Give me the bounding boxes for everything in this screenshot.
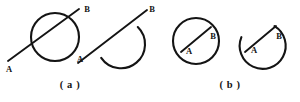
circle-outline	[31, 13, 79, 61]
point-label-a: A	[186, 46, 193, 56]
geometry-figure: A B A B A B A B ( a ) ( b )	[0, 0, 300, 102]
point-label-b: B	[84, 4, 90, 14]
point-label-b: B	[210, 31, 216, 41]
circle-outline	[173, 18, 219, 64]
caption-b: ( b )	[219, 79, 240, 91]
point-label-b: B	[276, 31, 282, 41]
figure-circle-with-chord: A B	[173, 18, 219, 64]
caption-a: ( a )	[60, 79, 81, 91]
point-label-a: A	[77, 54, 84, 64]
point-label-b: B	[149, 4, 155, 14]
secant-line	[78, 10, 147, 63]
chord-line	[245, 26, 276, 52]
arc-outline	[101, 27, 145, 68]
point-label-a: A	[6, 64, 13, 74]
figure-arc-with-chord: A B	[240, 26, 286, 69]
point-label-a: A	[251, 45, 258, 55]
figure-canvas: A B A B A B A B ( a ) ( b )	[0, 0, 300, 102]
